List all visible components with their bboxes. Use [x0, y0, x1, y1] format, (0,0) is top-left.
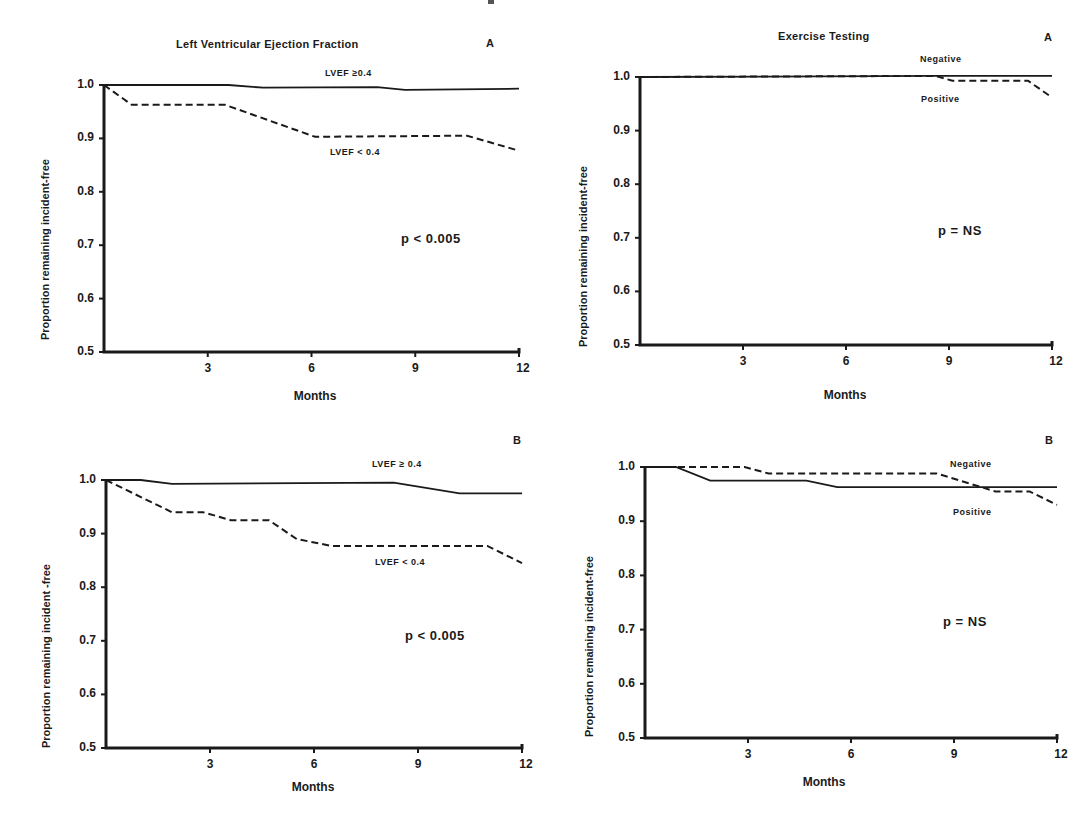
- y-tick-label: 0.7: [605, 622, 635, 636]
- axis-lines: [645, 467, 1057, 738]
- p-value: p = NS: [943, 614, 987, 629]
- x-axis-label: Months: [784, 775, 864, 789]
- x-tick-label: 12: [1046, 747, 1076, 761]
- y-tick-label: 0.9: [605, 513, 635, 527]
- series-line: [645, 467, 1057, 487]
- chart-exercise-b: B Negative Positive p = NS Proportion re…: [0, 0, 1090, 826]
- y-axis-label: Proportion remaining incident-free: [583, 556, 595, 737]
- x-tick-label: 3: [733, 747, 763, 761]
- series-line: [645, 467, 1057, 505]
- plot-area: [0, 0, 1090, 826]
- y-tick-label: 0.5: [605, 730, 635, 744]
- x-tick-label: 9: [939, 747, 969, 761]
- y-tick-label: 1.0: [605, 459, 635, 473]
- x-tick-label: 6: [836, 747, 866, 761]
- series-label-upper: Negative: [950, 459, 992, 469]
- panel-letter: B: [1045, 434, 1053, 446]
- y-tick-label: 0.6: [605, 676, 635, 690]
- y-tick-label: 0.8: [605, 567, 635, 581]
- series-label-lower: Positive: [953, 507, 992, 517]
